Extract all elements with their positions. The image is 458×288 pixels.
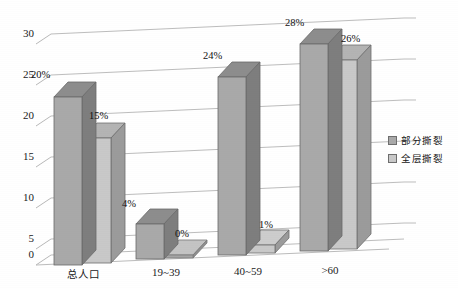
legend-swatch-series2 — [388, 154, 397, 163]
bar-front — [54, 97, 82, 265]
bar-chart: 30 25 20 15 10 5 0 总人口 19~39 40~59 >60 2… — [0, 0, 458, 288]
value-label-g3-s1: 24% — [203, 50, 222, 61]
bar-side — [328, 29, 342, 251]
legend-item-full-thickness-tear[interactable]: 全层撕裂 — [388, 150, 456, 166]
bar-side — [357, 45, 371, 249]
tick-connector-15 — [36, 157, 51, 167]
ytick-label-15: 15 — [8, 150, 34, 162]
legend-label-series2: 全层撕裂 — [401, 151, 443, 165]
tick-connector-10 — [36, 198, 51, 208]
bar-front — [300, 44, 328, 251]
ytick-label-5: 5 — [8, 232, 34, 244]
tick-connector-0 — [36, 255, 51, 265]
xtick-label-0: 总人口 — [50, 266, 116, 281]
legend-swatch-series1 — [388, 136, 397, 145]
xtick-label-3: >60 — [297, 264, 363, 276]
xtick-label-1: 19~39 — [133, 266, 199, 278]
tick-connector-30 — [36, 34, 51, 44]
bar-g3-s1 — [218, 62, 260, 255]
bar-side — [111, 123, 125, 263]
value-label-g4-s2: 26% — [341, 33, 360, 44]
ytick-label-20: 20 — [8, 109, 34, 121]
legend-gridline-stubs — [404, 18, 416, 223]
ytick-label-30: 30 — [8, 27, 34, 39]
bar-front — [218, 77, 246, 255]
tick-connector-20 — [36, 116, 51, 126]
chart-legend: 部分撕裂 全层撕裂 — [388, 132, 456, 168]
ytick-label-0: 0 — [8, 248, 34, 260]
value-label-g1-s1: 20% — [31, 69, 50, 80]
legend-item-partial-tear[interactable]: 部分撕裂 — [388, 132, 456, 148]
gridline-30 — [51, 18, 404, 34]
bar-side — [246, 62, 260, 255]
legend-label-series1: 部分撕裂 — [401, 133, 443, 147]
xtick-label-2: 40~59 — [215, 265, 281, 277]
value-label-g4-s1: 28% — [285, 17, 304, 28]
ytick-label-10: 10 — [8, 191, 34, 203]
bar-front — [136, 224, 164, 259]
value-label-g3-s2: 1% — [259, 219, 273, 230]
bar-g4-s1 — [300, 29, 342, 251]
tick-connector-5 — [36, 239, 51, 249]
bar-front — [165, 255, 193, 258]
value-label-g2-s1: 4% — [122, 198, 136, 209]
value-label-g2-s2: 0% — [175, 228, 189, 239]
value-label-g1-s2: 15% — [89, 110, 108, 121]
